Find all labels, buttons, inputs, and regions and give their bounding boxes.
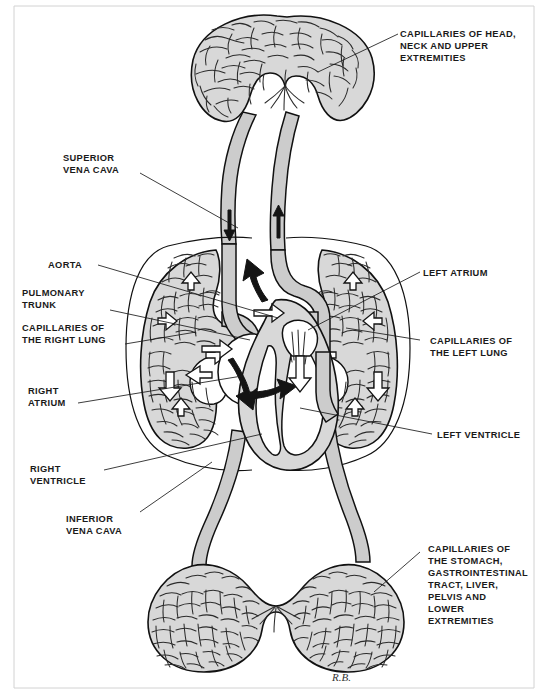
label-right-lung-capillaries: CAPILLARIES OF THE RIGHT LUNG bbox=[22, 323, 106, 345]
diagram-canvas: R.B. CAPILLARIES OF HEAD, NECK AND UPPER… bbox=[0, 0, 550, 694]
neck-vessels bbox=[221, 112, 299, 250]
label-superior-vena-cava: SUPERIOR VENA CAVA bbox=[63, 153, 119, 175]
head-capillary-bed bbox=[191, 15, 374, 121]
svg-text:AORTA: AORTA bbox=[48, 260, 82, 270]
svg-text:NECK AND UPPER: NECK AND UPPER bbox=[400, 41, 488, 51]
svg-text:VENA CAVA: VENA CAVA bbox=[63, 165, 119, 175]
label-right-ventricle: RIGHT VENTRICLE bbox=[30, 464, 86, 486]
svg-text:CAPILLARIES OF: CAPILLARIES OF bbox=[428, 544, 510, 554]
label-inferior-vena-cava: INFERIOR VENA CAVA bbox=[66, 514, 122, 536]
label-left-lung-capillaries: CAPILLARIES OF THE LEFT LUNG bbox=[430, 336, 512, 358]
svg-text:CAPILLARIES OF: CAPILLARIES OF bbox=[430, 336, 512, 346]
label-pulmonary-trunk: PULMONARY TRUNK bbox=[22, 288, 85, 310]
svg-text:TRUNK: TRUNK bbox=[22, 300, 56, 310]
lower-capillary-bed: R.B. bbox=[148, 565, 404, 683]
svg-text:EXTREMITIES: EXTREMITIES bbox=[428, 616, 494, 626]
svg-text:INFERIOR: INFERIOR bbox=[66, 514, 113, 524]
svg-text:ATRIUM: ATRIUM bbox=[28, 398, 66, 408]
leader-inferior-vena-cava bbox=[140, 462, 212, 512]
svg-text:LOWER: LOWER bbox=[428, 604, 464, 614]
svg-text:PULMONARY: PULMONARY bbox=[22, 288, 85, 298]
svg-text:GASTROINTESTINAL: GASTROINTESTINAL bbox=[428, 568, 528, 578]
label-right-atrium: RIGHT ATRIUM bbox=[28, 386, 66, 408]
svg-text:EXTREMITIES: EXTREMITIES bbox=[400, 53, 466, 63]
artist-signature: R.B. bbox=[331, 671, 351, 683]
leader-lower-capillaries bbox=[374, 552, 420, 592]
svg-text:CAPILLARIES OF HEAD,: CAPILLARIES OF HEAD, bbox=[400, 29, 516, 39]
svg-text:SUPERIOR: SUPERIOR bbox=[63, 153, 114, 163]
lower-capillary-outline bbox=[148, 565, 404, 672]
svg-text:RIGHT: RIGHT bbox=[30, 464, 61, 474]
superior-vena-cava-vessel bbox=[221, 112, 256, 244]
svg-text:TRACT, LIVER,: TRACT, LIVER, bbox=[428, 580, 498, 590]
svg-text:LEFT ATRIUM: LEFT ATRIUM bbox=[423, 268, 488, 278]
svg-text:RIGHT: RIGHT bbox=[28, 386, 59, 396]
inferior-vena-cava-vessel bbox=[192, 430, 246, 566]
circulation-diagram-figure: R.B. CAPILLARIES OF HEAD, NECK AND UPPER… bbox=[0, 0, 550, 694]
label-lower-capillaries: CAPILLARIES OF THE STOMACH, GASTROINTEST… bbox=[428, 544, 528, 626]
aorta-neck-vessel bbox=[270, 112, 299, 250]
svg-text:LEFT VENTRICLE: LEFT VENTRICLE bbox=[437, 430, 520, 440]
label-aorta: AORTA bbox=[48, 260, 82, 270]
svg-text:THE STOMACH,: THE STOMACH, bbox=[428, 556, 503, 566]
head-capillary-midline bbox=[265, 86, 304, 110]
svg-text:CAPILLARIES OF: CAPILLARIES OF bbox=[22, 323, 104, 333]
label-left-atrium: LEFT ATRIUM bbox=[423, 268, 488, 278]
svg-text:THE LEFT LUNG: THE LEFT LUNG bbox=[430, 348, 508, 358]
svg-text:VENA CAVA: VENA CAVA bbox=[66, 526, 122, 536]
svg-text:PELVIS AND: PELVIS AND bbox=[428, 592, 486, 602]
svg-text:VENTRICLE: VENTRICLE bbox=[30, 476, 86, 486]
label-left-ventricle: LEFT VENTRICLE bbox=[437, 430, 520, 440]
svg-text:THE RIGHT LUNG: THE RIGHT LUNG bbox=[22, 335, 106, 345]
label-head-capillaries: CAPILLARIES OF HEAD, NECK AND UPPER EXTR… bbox=[400, 29, 516, 63]
